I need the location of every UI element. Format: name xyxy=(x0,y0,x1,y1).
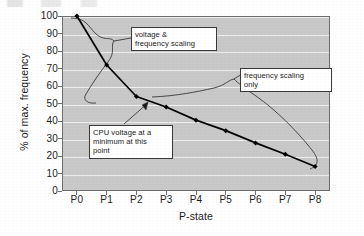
y-axis-tick-label: 50 xyxy=(26,99,58,109)
x-axis-tick-mark xyxy=(255,191,256,195)
annotation-line: voltage & xyxy=(135,30,213,39)
y-axis-tick-label: 80 xyxy=(26,46,58,56)
annotation-line: frequency scaling xyxy=(135,39,213,48)
y-axis-tick-label: 20 xyxy=(26,151,58,161)
y-axis-tick-label: 10 xyxy=(26,169,58,179)
y-axis-tick-label: 60 xyxy=(26,81,58,91)
y-axis-tick-label: 100 xyxy=(26,11,58,21)
x-axis-tick-mark xyxy=(285,191,286,195)
y-axis-tick-label: 70 xyxy=(26,64,58,74)
x-axis-tick-mark xyxy=(136,191,137,195)
annotation-line: only xyxy=(244,80,328,89)
gridline xyxy=(63,52,329,53)
x-axis-label: P-state xyxy=(62,210,330,222)
annotation-frequency-scaling-only: frequency scaling only xyxy=(240,68,332,92)
x-axis-tick-label: P8 xyxy=(298,194,332,205)
x-axis-tick-mark xyxy=(315,191,316,195)
y-axis-tick-label: 90 xyxy=(26,29,58,39)
y-axis-tick-label: 30 xyxy=(26,134,58,144)
x-axis-tick-mark xyxy=(106,191,107,195)
y-axis-tick-label: 0 xyxy=(26,186,58,196)
x-axis-tick-mark xyxy=(166,191,167,195)
x-axis-tick-mark xyxy=(196,191,197,195)
y-axis-tick-label: 40 xyxy=(26,116,58,126)
annotation-cpu-voltage-minimum: CPU voltage at a minimum at this point xyxy=(89,125,173,159)
x-axis-tick-mark xyxy=(76,191,77,195)
gridline xyxy=(63,175,329,176)
x-axis-tick-mark xyxy=(225,191,226,195)
gridline xyxy=(63,122,329,123)
annotation-line: point xyxy=(93,146,169,155)
gridline xyxy=(63,17,329,18)
annotation-line: frequency scaling xyxy=(244,71,328,80)
annotation-voltage-and-frequency-scaling: voltage & frequency scaling xyxy=(131,27,217,51)
gridline xyxy=(63,105,329,106)
annotation-line: CPU voltage at a xyxy=(93,128,169,137)
annotation-line: minimum at this xyxy=(93,137,169,146)
chart-figure: % of max. frequency 01020304050607080901… xyxy=(0,0,364,236)
